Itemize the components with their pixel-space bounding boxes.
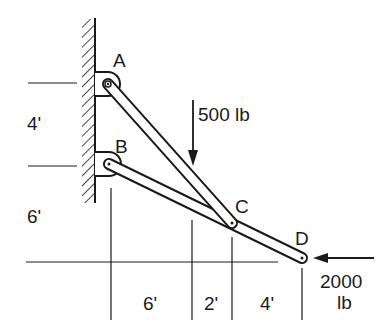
vertical-dimensions: 4' 6' <box>27 83 77 227</box>
member-bd-fill <box>109 164 302 258</box>
joint-label-d: D <box>295 228 309 249</box>
dim-label-4ft-vertical: 4' <box>27 113 41 134</box>
load-500lb: 500 lb <box>188 100 250 166</box>
load-2000lb-value: 2000 <box>320 271 362 292</box>
load-2000lb-unit: lb <box>337 292 352 313</box>
dim-label-4ft-horizontal: 4' <box>260 293 274 314</box>
dim-label-2ft-horizontal: 2' <box>204 293 218 314</box>
dim-label-6ft-horizontal: 6' <box>143 293 157 314</box>
wall-hatching <box>82 19 95 203</box>
pin-a-center <box>107 83 109 85</box>
member-bd <box>109 164 302 258</box>
pin-c-icon <box>231 222 234 225</box>
horizontal-dimensions: 6' 2' 4' <box>26 188 302 320</box>
joint-label-c: C <box>235 196 249 217</box>
load-500lb-label: 500 lb <box>198 104 250 125</box>
pin-b-icon <box>108 163 111 166</box>
load-2000lb: 2000 lb <box>313 253 374 313</box>
joint-label-a: A <box>113 50 126 71</box>
dim-label-6ft-vertical: 6' <box>27 206 41 227</box>
truss-diagram: 4' 6' 6' 2' 4' A B C D <box>0 0 389 335</box>
wall <box>82 18 95 203</box>
arrow-down-icon <box>188 150 198 166</box>
pin-d-icon <box>301 257 304 260</box>
arrow-left-icon <box>313 253 328 263</box>
joint-label-b: B <box>115 136 128 157</box>
